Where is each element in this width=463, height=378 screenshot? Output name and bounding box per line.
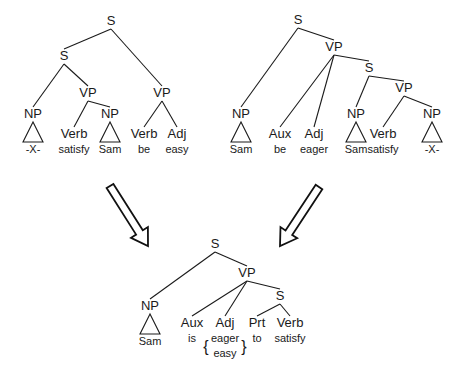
leaf-word: -X- — [26, 143, 41, 155]
category-label: VP — [153, 85, 170, 100]
tree-edge — [280, 55, 334, 127]
tree-edge — [356, 76, 369, 107]
node-np: NPSam — [230, 106, 253, 155]
tree-edge — [74, 101, 88, 127]
category-label: S — [365, 60, 374, 75]
category-label: Prt — [249, 315, 266, 330]
leaf-word: satisfy — [367, 143, 399, 155]
arrow-right-icon — [280, 185, 322, 246]
category-label: VP — [325, 39, 342, 54]
alternate-leaf-word: easy — [213, 347, 237, 359]
node-s: S — [60, 48, 69, 63]
node-vp: VP — [153, 85, 170, 100]
node-verb: Verbsatisfy — [58, 126, 90, 155]
category-label: NP — [101, 106, 119, 121]
syntax-tree-diagram: SSVPNP-X-VPVerbsatisfyNPSamVerbbeAdjeasy… — [0, 0, 463, 378]
tree-edge — [314, 55, 334, 127]
tree-edge — [383, 96, 404, 127]
triangle-icon — [140, 314, 160, 334]
node-np: NPSam — [99, 106, 122, 155]
tree-edge — [144, 101, 162, 127]
category-label: S — [294, 12, 303, 27]
tree-edge — [33, 64, 64, 107]
node-verb: Verbsatisfy — [367, 126, 399, 155]
node-np: NP-X- — [422, 106, 442, 155]
leaf-word: -X- — [425, 143, 440, 155]
tree-edge — [64, 29, 111, 49]
leaf-word: eager — [211, 332, 239, 344]
category-label: Verb — [370, 126, 397, 141]
node-vp: VP — [79, 85, 96, 100]
leaf-word: Sam — [139, 335, 162, 347]
category-label: Aux — [181, 315, 204, 330]
triangle-icon — [422, 122, 442, 142]
node-s: S — [211, 236, 220, 251]
tree-nodes: SSVPNP-X-VPVerbsatisfyNPSamVerbbeAdjeasy… — [23, 12, 442, 359]
tree-edge — [64, 64, 88, 86]
category-label: VP — [395, 80, 412, 95]
category-label: NP — [141, 298, 159, 313]
leaf-word: be — [274, 143, 286, 155]
node-s: S — [294, 12, 303, 27]
tree-edge — [111, 29, 162, 86]
node-np: NPSam — [139, 298, 162, 347]
category-label: S — [107, 13, 116, 28]
node-prt: Prtto — [249, 315, 266, 344]
category-label: Adj — [216, 315, 235, 330]
node-adj: Adjeasy — [165, 126, 189, 155]
triangle-icon — [23, 122, 43, 142]
node-s: S — [107, 13, 116, 28]
leaf-word: Sam — [345, 143, 368, 155]
category-label: VP — [79, 85, 96, 100]
tree-edge — [241, 28, 298, 107]
category-label: S — [211, 236, 220, 251]
category-label: Adj — [305, 126, 324, 141]
node-adj: Adjeager — [300, 126, 328, 155]
tree-edge — [162, 101, 177, 127]
leaf-word: easy — [165, 143, 189, 155]
leaf-word: satisfy — [274, 332, 306, 344]
leaf-word: to — [252, 332, 261, 344]
category-label: NP — [423, 106, 441, 121]
node-adj: Adjeagereasy{} — [203, 315, 247, 359]
tree-edge — [150, 252, 215, 299]
category-label: Verb — [131, 126, 158, 141]
triangle-icon — [346, 122, 366, 142]
node-np: NPSam — [345, 106, 368, 155]
triangle-icon — [100, 122, 120, 142]
leaf-word: Sam — [230, 143, 253, 155]
node-vp: VP — [325, 39, 342, 54]
category-label: S — [60, 48, 69, 63]
triangle-icon — [231, 122, 251, 142]
category-label: Verb — [277, 315, 304, 330]
right-brace: } — [241, 338, 247, 355]
node-verb: Verbbe — [131, 126, 158, 155]
tree-edge — [225, 281, 247, 316]
node-vp: VP — [395, 80, 412, 95]
tree-edge — [215, 252, 247, 266]
category-label: Verb — [61, 126, 88, 141]
category-label: Aux — [269, 126, 292, 141]
category-label: S — [276, 288, 285, 303]
category-label: Adj — [168, 126, 187, 141]
category-label: NP — [232, 106, 250, 121]
leaf-word: eager — [300, 143, 328, 155]
leaf-word: satisfy — [58, 143, 90, 155]
arrow-left-icon — [107, 184, 148, 246]
node-aux: Auxis — [181, 315, 204, 344]
leaf-word: Sam — [99, 143, 122, 155]
leaf-word: be — [138, 143, 150, 155]
category-label: NP — [347, 106, 365, 121]
category-label: NP — [24, 106, 42, 121]
node-s: S — [276, 288, 285, 303]
leaf-word: is — [188, 332, 196, 344]
node-aux: Auxbe — [269, 126, 292, 155]
node-np: NP-X- — [23, 106, 43, 155]
category-label: VP — [238, 265, 255, 280]
node-s: S — [365, 60, 374, 75]
left-brace: { — [203, 338, 209, 355]
node-vp: VP — [238, 265, 255, 280]
tree-edge — [192, 281, 247, 316]
node-verb: Verbsatisfy — [274, 315, 306, 344]
